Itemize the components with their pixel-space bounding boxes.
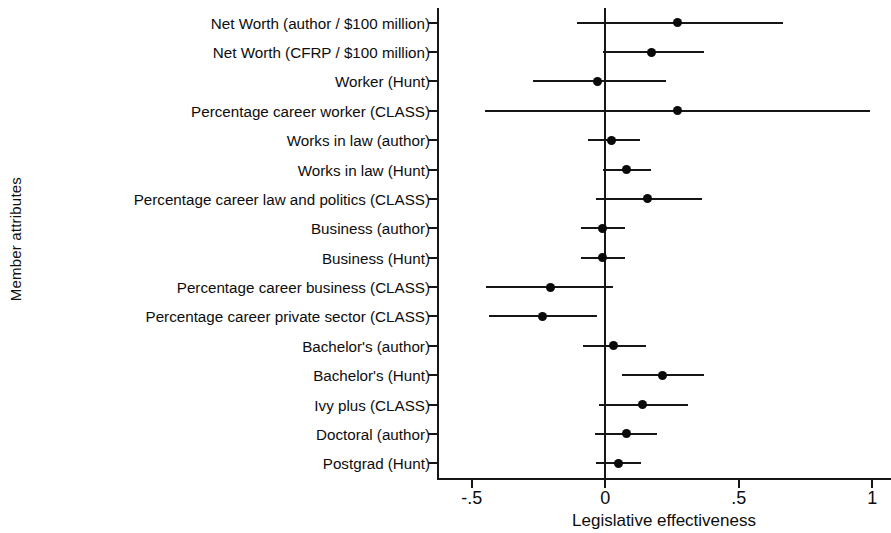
point-estimate-marker bbox=[598, 224, 607, 233]
category-label: Percentage career law and politics (CLAS… bbox=[134, 190, 430, 207]
x-axis-tick bbox=[604, 480, 606, 488]
x-axis-tick bbox=[871, 480, 873, 488]
category-label: Ivy plus (CLASS) bbox=[314, 396, 430, 413]
y-axis-tick bbox=[428, 110, 437, 112]
point-estimate-marker bbox=[622, 429, 631, 438]
point-estimate-marker bbox=[609, 341, 618, 350]
category-label: Works in law (author) bbox=[287, 132, 430, 149]
y-axis-tick bbox=[428, 139, 437, 141]
category-label-column: Net Worth (author / $100 million)Net Wor… bbox=[30, 0, 430, 478]
y-axis-tick bbox=[428, 22, 437, 24]
x-axis-tick bbox=[471, 480, 473, 488]
category-label: Business (Hunt) bbox=[322, 249, 430, 266]
category-label: Percentage career worker (CLASS) bbox=[191, 102, 430, 119]
y-axis-tick bbox=[428, 374, 437, 376]
y-axis-title: Member attributes bbox=[0, 0, 30, 478]
y-axis-tick bbox=[428, 462, 437, 464]
y-axis-tick bbox=[428, 169, 437, 171]
point-estimate-marker bbox=[614, 459, 623, 468]
zero-reference-line bbox=[604, 8, 606, 478]
x-axis-tick-label: 1 bbox=[867, 488, 877, 509]
y-axis-tick bbox=[428, 51, 437, 53]
point-estimate-marker bbox=[622, 165, 631, 174]
category-label: Postgrad (Hunt) bbox=[323, 455, 430, 472]
point-estimate-marker bbox=[546, 283, 555, 292]
y-axis-tick bbox=[428, 198, 437, 200]
category-label: Bachelor's (Hunt) bbox=[313, 367, 430, 384]
coefficient-plot-figure: Member attributes Net Worth (author / $1… bbox=[0, 0, 891, 533]
category-label: Net Worth (CFRP / $100 million) bbox=[213, 44, 430, 61]
y-axis-tick bbox=[428, 433, 437, 435]
category-label: Works in law (Hunt) bbox=[298, 161, 430, 178]
x-axis-title: Legislative effectiveness bbox=[437, 511, 891, 531]
category-label: Percentage career business (CLASS) bbox=[177, 279, 430, 296]
y-axis-tick bbox=[428, 257, 437, 259]
category-label: Worker (Hunt) bbox=[335, 73, 430, 90]
y-axis-line bbox=[437, 8, 439, 478]
category-label: Doctoral (author) bbox=[316, 425, 430, 442]
point-estimate-marker bbox=[538, 312, 547, 321]
x-axis-line bbox=[437, 478, 891, 480]
y-axis-tick bbox=[428, 404, 437, 406]
x-axis-tick-label: -.5 bbox=[461, 488, 482, 509]
y-axis-tick bbox=[428, 286, 437, 288]
point-estimate-marker bbox=[658, 371, 667, 380]
plot-area bbox=[437, 8, 891, 478]
category-label: Percentage career private sector (CLASS) bbox=[146, 308, 430, 325]
y-axis-tick bbox=[428, 315, 437, 317]
y-axis-title-text: Member attributes bbox=[7, 177, 24, 301]
category-label: Business (author) bbox=[311, 220, 430, 237]
point-estimate-marker bbox=[607, 136, 616, 145]
y-axis-tick bbox=[428, 345, 437, 347]
point-estimate-marker bbox=[647, 48, 656, 57]
point-estimate-marker bbox=[673, 18, 682, 27]
point-estimate-marker bbox=[593, 77, 602, 86]
point-estimate-marker bbox=[673, 106, 682, 115]
point-estimate-marker bbox=[638, 400, 647, 409]
y-axis-tick bbox=[428, 80, 437, 82]
category-label: Bachelor's (author) bbox=[302, 337, 430, 354]
x-axis-tick bbox=[738, 480, 740, 488]
x-axis-tick-label: .5 bbox=[731, 488, 746, 509]
x-axis: Legislative effectiveness -.50.51 bbox=[437, 478, 891, 533]
y-axis-tick bbox=[428, 227, 437, 229]
x-axis-tick-label: 0 bbox=[600, 488, 610, 509]
category-label: Net Worth (author / $100 million) bbox=[211, 14, 430, 31]
point-estimate-marker bbox=[643, 194, 652, 203]
